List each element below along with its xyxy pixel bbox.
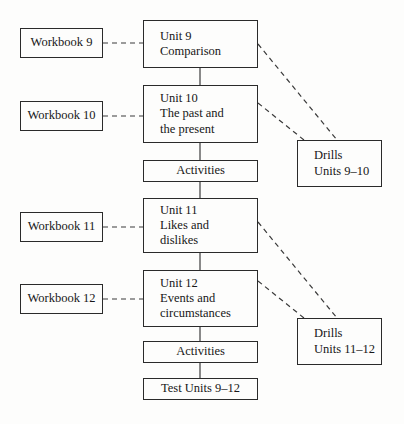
node-text-line: Events and — [160, 291, 231, 306]
node-text-line: circumstances — [160, 306, 231, 321]
node-unit-12[interactable]: Unit 12Events andcircumstances — [143, 270, 258, 327]
connector-e-u10-drills1 — [258, 103, 304, 140]
node-text-line: the present — [160, 122, 224, 137]
node-text-line: Workbook 12 — [27, 291, 95, 306]
node-label-workbook-9: Workbook 9 — [24, 35, 100, 50]
node-workbook-9[interactable]: Workbook 9 — [20, 28, 103, 58]
connector-e-u12-drills2 — [258, 281, 304, 318]
node-label-activities-2: Activities — [169, 344, 232, 359]
node-label-unit-9: Unit 9Comparison — [144, 29, 228, 60]
node-text-line: Unit 9 — [160, 29, 221, 44]
node-text-line: Unit 11 — [160, 203, 209, 218]
course-structure-diagram: Workbook 9Unit 9ComparisonWorkbook 10Uni… — [0, 0, 404, 424]
node-unit-10[interactable]: Unit 10The past andthe present — [143, 85, 258, 143]
node-text-line: Workbook 10 — [27, 108, 95, 123]
node-test-units[interactable]: Test Units 9–12 — [143, 378, 258, 400]
node-drills-9-10[interactable]: DrillsUnits 9–10 — [297, 140, 382, 187]
node-label-workbook-11: Workbook 11 — [21, 219, 103, 234]
node-label-test-units: Test Units 9–12 — [154, 381, 247, 396]
node-text-line: Drills — [314, 148, 369, 163]
node-text-line: Test Units 9–12 — [161, 381, 240, 396]
node-label-unit-10: Unit 10The past andthe present — [144, 91, 231, 137]
node-activities-1[interactable]: Activities — [143, 160, 258, 182]
node-label-unit-11: Unit 11Likes anddislikes — [144, 203, 216, 249]
node-workbook-12[interactable]: Workbook 12 — [20, 284, 103, 314]
node-label-unit-12: Unit 12Events andcircumstances — [144, 276, 238, 322]
node-text-line: Unit 12 — [160, 276, 231, 291]
node-label-activities-1: Activities — [169, 163, 232, 178]
node-label-drills-11-12: DrillsUnits 11–12 — [298, 326, 382, 357]
node-unit-9[interactable]: Unit 9Comparison — [143, 20, 258, 68]
connector-e-u9-drills1 — [258, 44, 337, 140]
node-label-drills-9-10: DrillsUnits 9–10 — [298, 148, 376, 179]
node-workbook-11[interactable]: Workbook 11 — [20, 212, 103, 242]
node-label-workbook-12: Workbook 12 — [20, 291, 102, 306]
node-text-line: Likes and — [160, 218, 209, 233]
node-workbook-10[interactable]: Workbook 10 — [20, 101, 103, 131]
node-text-line: Workbook 9 — [31, 35, 93, 50]
node-activities-2[interactable]: Activities — [143, 341, 258, 363]
node-label-workbook-10: Workbook 10 — [20, 108, 102, 123]
node-text-line: The past and — [160, 106, 224, 121]
node-text-line: Workbook 11 — [28, 219, 96, 234]
node-text-line: Unit 10 — [160, 91, 224, 106]
node-text-line: Comparison — [160, 44, 221, 59]
node-unit-11[interactable]: Unit 11Likes anddislikes — [143, 198, 258, 253]
node-text-line: Activities — [176, 163, 225, 178]
node-text-line: dislikes — [160, 233, 209, 248]
node-text-line: Units 9–10 — [314, 164, 369, 179]
node-text-line: Units 11–12 — [314, 342, 375, 357]
node-text-line: Activities — [176, 344, 225, 359]
connector-e-u11-drills2 — [258, 222, 337, 318]
node-drills-11-12[interactable]: DrillsUnits 11–12 — [297, 318, 382, 365]
node-text-line: Drills — [314, 326, 375, 341]
